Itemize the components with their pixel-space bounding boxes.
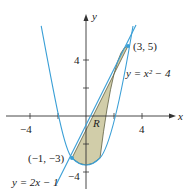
parabola-label: y = x² − 4 xyxy=(125,67,171,79)
x-tick-label-4: 4 xyxy=(139,123,145,135)
region-label: R xyxy=(92,117,100,129)
y-axis-arrow-icon xyxy=(84,14,89,21)
x-axis-arrow-icon xyxy=(169,114,176,119)
point-3-5 xyxy=(126,44,130,48)
x-tick-label-neg4: −4 xyxy=(20,123,32,135)
point-neg1-neg3 xyxy=(70,156,74,160)
y-tick-label-neg4: −4 xyxy=(68,170,80,182)
graph-canvas: y x −4 4 4 −4 (3, 5) (−1, −3) y = x² − 4… xyxy=(0,0,191,189)
point-label-neg1-neg3: (−1, −3) xyxy=(28,152,65,165)
line-label: y = 2x − 1 xyxy=(11,176,59,188)
point-label-3-5: (3, 5) xyxy=(133,40,157,53)
y-tick-label-4: 4 xyxy=(74,54,80,66)
region-r xyxy=(72,46,128,165)
x-axis-label: x xyxy=(177,110,183,122)
y-axis-label: y xyxy=(91,10,97,22)
